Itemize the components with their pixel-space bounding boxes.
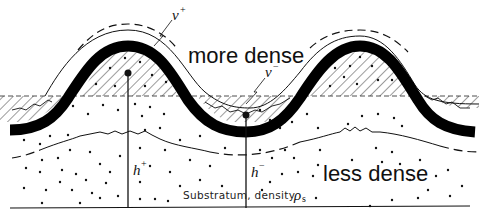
svg-text:Substratum, density: Substratum, density — [183, 189, 295, 201]
label-v-plus: v + — [172, 4, 186, 23]
svg-text:+: + — [180, 4, 186, 15]
svg-text:v: v — [172, 7, 179, 23]
svg-text:−: − — [259, 160, 265, 171]
lower-boundary-solid-2 — [300, 127, 440, 146]
label-substratum: Substratum, density ρ s — [183, 187, 306, 204]
svg-text:+: + — [141, 158, 147, 169]
substratum-baseline — [10, 206, 470, 208]
svg-text:−: − — [273, 61, 279, 72]
lower-boundary-solid — [40, 131, 210, 152]
label-h-plus: h + — [133, 158, 147, 178]
svg-text:s: s — [302, 193, 306, 204]
svg-text:h: h — [251, 164, 259, 180]
svg-text:ρ: ρ — [293, 187, 301, 203]
svg-text:v: v — [265, 64, 272, 80]
density-interface-diagram: more dense less dense Substratum, densit… — [0, 0, 479, 221]
svg-text:h: h — [133, 162, 141, 178]
label-less-dense: less dense — [323, 161, 428, 186]
label-more-dense: more dense — [188, 43, 304, 68]
label-h-minus: h − — [251, 160, 265, 180]
v-plus-leader — [154, 20, 172, 46]
